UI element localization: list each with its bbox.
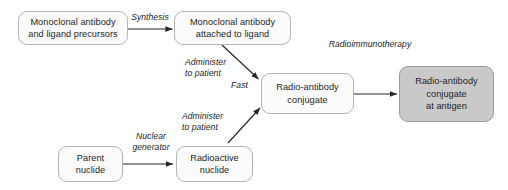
node-parent-nuclide-label: Parent nuclide bbox=[76, 152, 105, 177]
node-radio-antibody-conjugate-label: Radio-antibody conjugate bbox=[276, 81, 339, 106]
node-radio-antibody-conjugate[interactable]: Radio-antibody conjugate bbox=[261, 73, 354, 114]
node-radioactive-nuclide-label: Radioactive nuclide bbox=[190, 152, 239, 177]
node-antibody-attached-to-ligand[interactable]: Monoclonal antibody attached to ligand bbox=[174, 11, 291, 45]
node-antibody-attached-to-ligand-label: Monoclonal antibody attached to ligand bbox=[190, 16, 275, 41]
edge-label-fast: Fast bbox=[231, 80, 261, 91]
node-parent-nuclide[interactable]: Parent nuclide bbox=[58, 146, 123, 182]
node-radioactive-nuclide[interactable]: Radioactive nuclide bbox=[176, 146, 253, 182]
edge-label-nuclear-generator: Nuclear generator bbox=[124, 131, 178, 154]
node-radio-antibody-conjugate-at-antigen-label: Radio-antibody conjugate at antigen bbox=[415, 75, 478, 112]
edge-label-administer-bottom: Administer to patient bbox=[182, 111, 242, 134]
node-precursors[interactable]: Monoclonal antibody and ligand precursor… bbox=[18, 11, 128, 45]
edge-label-administer-top: Administer to patient bbox=[185, 57, 245, 80]
node-precursors-label: Monoclonal antibody and ligand precursor… bbox=[28, 16, 117, 41]
node-radio-antibody-conjugate-at-antigen[interactable]: Radio-antibody conjugate at antigen bbox=[399, 66, 494, 122]
edge-label-synthesis: Synthesis bbox=[125, 12, 175, 23]
diagram-canvas: Monoclonal antibody and ligand precursor… bbox=[0, 0, 508, 190]
edge-label-radioimmunotherapy: Radioimmunotherapy bbox=[305, 39, 435, 50]
